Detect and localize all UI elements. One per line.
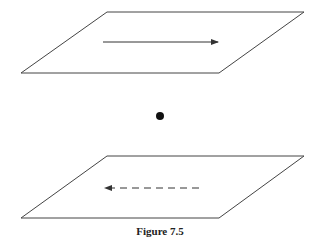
- center-point: [156, 112, 164, 120]
- figure-caption: Figure 7.5: [0, 225, 320, 237]
- figure-diagram: [0, 0, 320, 251]
- bottom-plane: [21, 156, 304, 218]
